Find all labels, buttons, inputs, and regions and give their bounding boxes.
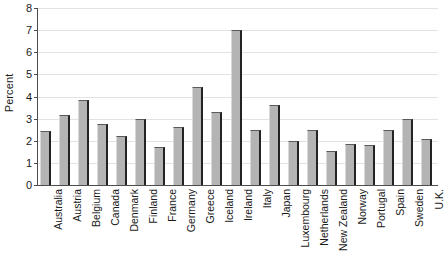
- bar: [135, 119, 146, 185]
- bar: [288, 141, 299, 185]
- bar: [250, 130, 261, 185]
- x-tick-label: Ireland: [241, 189, 255, 275]
- x-tick-label: Austria: [70, 189, 84, 275]
- x-tick-label: France: [165, 189, 179, 275]
- bar: [402, 119, 413, 185]
- x-tick-label: Iceland: [222, 189, 236, 275]
- bar: [173, 127, 184, 185]
- x-tick-label: Norway: [355, 189, 369, 275]
- x-tick-label: Finland: [146, 189, 160, 275]
- y-tick-label: 2: [26, 135, 32, 146]
- x-tick-label: Australia: [51, 189, 65, 275]
- y-tick-label: 5: [26, 69, 32, 80]
- x-tick-label: Germany: [184, 189, 198, 275]
- x-tick-label: Denmark: [127, 189, 141, 275]
- x-tick-label: Italy: [260, 189, 274, 275]
- y-tick-label: 1: [26, 157, 32, 168]
- bar: [154, 147, 165, 185]
- y-tick-label: 6: [26, 47, 32, 58]
- bar: [40, 131, 51, 185]
- bar: [116, 136, 127, 185]
- x-tick-label: Belgium: [89, 189, 103, 275]
- x-tick-label: Japan: [279, 189, 293, 275]
- x-tick-label: Spain: [393, 189, 407, 275]
- x-tick-label: Canada: [108, 189, 122, 275]
- y-axis-title: Percent: [0, 0, 18, 186]
- x-tick-label: Netherlands: [317, 189, 331, 275]
- y-tick-label: 4: [26, 91, 32, 102]
- bar: [78, 100, 89, 185]
- y-tick-label: 7: [26, 25, 32, 36]
- bar: [97, 124, 108, 185]
- x-tick-label: U.K.: [432, 189, 446, 275]
- y-tick-label: 0: [26, 180, 32, 191]
- x-tick-label: Greece: [203, 189, 217, 275]
- plot-area: [37, 8, 438, 186]
- x-tick-label: Portugal: [374, 189, 388, 275]
- bar-chart: Percent 012345678 AustraliaAustriaBelgiu…: [0, 0, 446, 275]
- y-axis-title-text: Percent: [3, 74, 15, 113]
- bar: [364, 145, 375, 185]
- x-tick-label: New Zealand: [336, 189, 350, 275]
- bar: [421, 139, 432, 185]
- y-tick-label: 3: [26, 113, 32, 124]
- bar: [231, 30, 242, 185]
- x-axis-tick-labels: AustraliaAustriaBelgiumCanadaDenmarkFinl…: [37, 189, 438, 275]
- y-tick-label: 8: [26, 3, 32, 14]
- bar: [211, 112, 222, 185]
- bar: [383, 130, 394, 185]
- bar: [326, 151, 337, 185]
- bar: [345, 144, 356, 185]
- x-tick-label: Sweden: [412, 189, 426, 275]
- bar: [192, 87, 203, 185]
- y-axis-tick-labels: 012345678: [18, 0, 35, 200]
- bars-layer: [37, 8, 438, 186]
- bar: [59, 115, 70, 185]
- bar: [269, 105, 280, 185]
- x-tick-label: Luxembourg: [298, 189, 312, 275]
- bar: [307, 130, 318, 185]
